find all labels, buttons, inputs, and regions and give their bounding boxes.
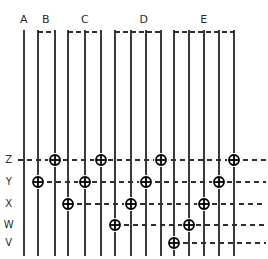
group-label-D: D bbox=[140, 14, 149, 25]
grid-diagram-svg bbox=[0, 0, 268, 259]
row-label-V: V bbox=[5, 238, 12, 248]
marker-m-D6-W[interactable] bbox=[108, 218, 122, 232]
diagram-background bbox=[0, 0, 268, 259]
group-label-A: A bbox=[20, 14, 28, 25]
marker-m-D7-X[interactable] bbox=[124, 197, 138, 211]
row-label-X: X bbox=[5, 199, 12, 209]
row-label-Z: Z bbox=[5, 155, 12, 165]
marker-m-E10-V[interactable] bbox=[167, 236, 181, 250]
row-label-Y: Y bbox=[6, 177, 13, 187]
marker-m-C3-X[interactable] bbox=[61, 197, 75, 211]
marker-m-C4-Y[interactable] bbox=[78, 175, 92, 189]
marker-m-C5-Z[interactable] bbox=[94, 153, 108, 167]
group-label-E: E bbox=[200, 14, 207, 25]
marker-m-B1-Y[interactable] bbox=[31, 175, 45, 189]
marker-m-B2-Z[interactable] bbox=[48, 153, 62, 167]
marker-m-D9-Z[interactable] bbox=[154, 153, 168, 167]
row-label-W: W bbox=[4, 220, 14, 230]
marker-m-E13-Y[interactable] bbox=[212, 175, 226, 189]
marker-m-E11-W[interactable] bbox=[182, 218, 196, 232]
marker-m-D8-Y[interactable] bbox=[139, 175, 153, 189]
diagram-canvas: ABCDE ZYXWV bbox=[0, 0, 268, 259]
marker-m-E12-X[interactable] bbox=[197, 197, 211, 211]
group-label-C: C bbox=[81, 14, 89, 25]
group-label-B: B bbox=[42, 14, 50, 25]
marker-m-E14-Z[interactable] bbox=[227, 153, 241, 167]
